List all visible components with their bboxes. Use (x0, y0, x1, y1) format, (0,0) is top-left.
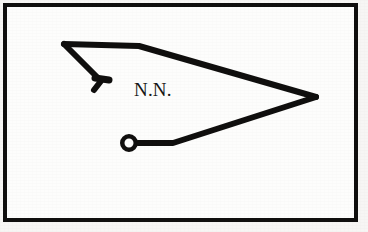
pennant-top-edge (64, 44, 316, 97)
figure-label-nn: N.N. (134, 80, 172, 99)
staff-ring-icon (122, 136, 136, 150)
pennant-lower-edge (138, 97, 316, 143)
screenshot-root: N.N. (0, 0, 368, 232)
pennant-figure (0, 0, 368, 232)
staff-barb-icon (95, 78, 109, 80)
staff-diagonal-line (64, 44, 101, 90)
